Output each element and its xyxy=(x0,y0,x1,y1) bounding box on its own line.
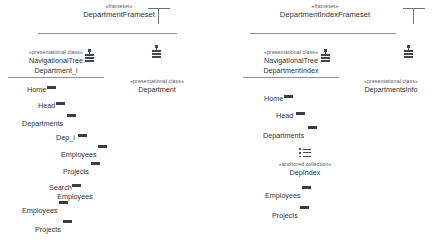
document-icon-line xyxy=(152,50,161,52)
link-item[interactable]: Head xyxy=(276,111,305,120)
anchor-bar-icon xyxy=(91,162,100,165)
link-label: Employees xyxy=(61,150,97,159)
anchor-bar-icon xyxy=(308,126,317,129)
link-item[interactable]: Search Employees xyxy=(49,183,101,201)
anchor-bar-icon xyxy=(302,186,311,189)
link-label: Departments xyxy=(263,131,304,140)
link-item[interactable]: Head xyxy=(38,101,65,110)
class-departments-info[interactable]: «presentational class» DepartmentsInfo xyxy=(345,78,437,95)
anchor-bar-icon xyxy=(59,201,68,204)
document-icon-line xyxy=(85,57,94,59)
list-icon-bullet xyxy=(299,156,301,158)
document-icon xyxy=(85,49,94,62)
link-item[interactable]: Home xyxy=(264,94,293,103)
anchor-bar-icon xyxy=(300,206,309,209)
class-divider xyxy=(8,77,104,78)
link-label: Projects xyxy=(63,167,89,176)
link-label: Search xyxy=(49,183,72,192)
diagram-canvas: «frameset» DepartmentFrameset «presentat… xyxy=(0,0,437,242)
frameset-icon xyxy=(148,8,170,24)
class-name-line1: Department xyxy=(107,85,207,95)
list-icon-bullet xyxy=(299,152,301,154)
anchor-bar-icon xyxy=(47,86,56,89)
link-label: Home xyxy=(264,94,283,103)
frameset-icon-vbar xyxy=(413,8,414,24)
frameset-stereotype: «frameset» xyxy=(245,3,405,10)
document-icon-line xyxy=(404,50,413,52)
link-item[interactable]: Departments xyxy=(263,131,304,140)
group-divider-department-index-frameset xyxy=(250,33,396,34)
link-label: Head xyxy=(276,111,293,120)
document-icon xyxy=(404,45,413,58)
class-dep-index-collection[interactable]: «anchored collection» DepIndex xyxy=(258,161,352,178)
frameset-icon-vbar xyxy=(158,8,159,24)
link-label: Home xyxy=(27,85,46,94)
class-name-line2: Department_i xyxy=(8,66,104,76)
class-stereotype: «presentational class» xyxy=(345,78,437,85)
link-label: Projects xyxy=(35,225,61,234)
link-label: Employees xyxy=(265,191,301,200)
link-item[interactable]: Home xyxy=(27,85,56,94)
link-label: Projects xyxy=(272,211,298,220)
link-item[interactable]: Departments xyxy=(22,119,63,128)
frameset-icon xyxy=(403,8,425,24)
anchor-bar-icon xyxy=(98,145,107,148)
link-label: Head xyxy=(38,101,55,110)
link-item[interactable]: Employees xyxy=(265,191,301,200)
anchor-bar-icon xyxy=(296,112,305,115)
document-icon-line xyxy=(152,56,161,58)
link-label: Employees xyxy=(22,206,58,215)
link-label-continuation: Employees xyxy=(49,192,101,201)
link-item[interactable]: Dep_i xyxy=(56,133,87,142)
frameset-icon-hbar xyxy=(148,8,170,9)
document-icon-line xyxy=(321,57,330,59)
link-item[interactable]: Projects xyxy=(272,211,298,220)
class-stereotype: «anchored collection» xyxy=(258,161,352,168)
link-item[interactable]: Projects xyxy=(35,225,61,234)
class-name-line2: DepartmentIndex xyxy=(243,66,339,76)
class-divider xyxy=(243,77,339,78)
anchor-bar-icon xyxy=(78,134,87,137)
link-label: Departments xyxy=(22,119,63,128)
frameset-stereotype: «frameset» xyxy=(34,3,204,10)
list-icon xyxy=(299,148,311,158)
document-icon xyxy=(152,45,161,58)
frameset-title: DepartmentIndexFrameset xyxy=(245,10,405,20)
link-label: Dep_i xyxy=(56,133,75,142)
document-icon xyxy=(321,49,330,62)
link-item[interactable]: Projects xyxy=(63,167,89,176)
document-icon-line xyxy=(321,60,330,62)
document-icon-line xyxy=(321,54,330,56)
frameset-title: DepartmentFrameset xyxy=(34,10,204,20)
list-icon-line xyxy=(303,149,312,150)
frameset-icon-hbar xyxy=(403,8,425,9)
document-icon-line xyxy=(404,53,413,55)
anchor-bar-icon xyxy=(284,95,293,98)
group-divider-department-frameset xyxy=(38,33,177,34)
class-name-line1: DepartmentsInfo xyxy=(345,85,437,95)
document-icon-line xyxy=(152,53,161,55)
document-icon-line xyxy=(85,54,94,56)
class-department[interactable]: «presentational class» Department xyxy=(107,78,207,95)
link-item[interactable]: Employees xyxy=(22,206,58,215)
anchor-bar-icon xyxy=(72,184,81,187)
group-header-department-index-frameset: «frameset» DepartmentIndexFrameset xyxy=(245,3,405,20)
anchor-bar-icon xyxy=(56,102,65,105)
list-icon-line xyxy=(303,156,312,157)
anchor-bar-icon xyxy=(63,220,72,223)
document-icon-line xyxy=(404,56,413,58)
group-header-department-frameset: «frameset» DepartmentFrameset xyxy=(34,3,204,20)
list-icon-bullet xyxy=(299,148,301,150)
class-name-line1: DepIndex xyxy=(258,168,352,178)
document-icon-line xyxy=(85,60,94,62)
list-icon-line xyxy=(303,152,312,153)
link-item[interactable]: Employees xyxy=(61,150,97,159)
class-stereotype: «presentational class» xyxy=(107,78,207,85)
anchor-bar-icon xyxy=(67,114,76,117)
